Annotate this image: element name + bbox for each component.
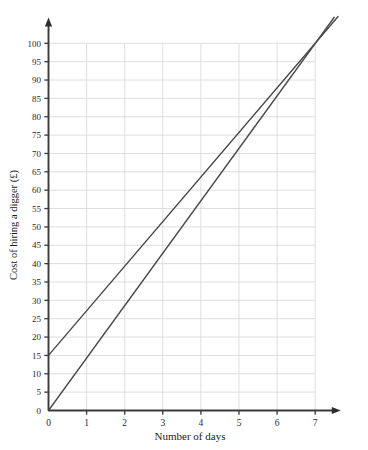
- y-tick-label: 65: [32, 167, 42, 177]
- y-tick-label: 45: [32, 240, 42, 250]
- x-axis-title: Number of days: [155, 430, 226, 442]
- x-tick-label: 2: [122, 418, 127, 428]
- y-tick-label: 50: [32, 222, 42, 232]
- x-tick-label: 5: [237, 418, 242, 428]
- y-tick-label: 25: [32, 314, 42, 324]
- y-tick-label: 55: [32, 204, 42, 214]
- y-tick-label: 95: [32, 57, 42, 67]
- x-tick-label: 7: [313, 418, 318, 428]
- y-tick-label: 10: [32, 369, 42, 379]
- chart-container: 0510152025303540455055606570758085909510…: [0, 0, 368, 450]
- y-tick-label: 0: [37, 406, 42, 416]
- x-tick-label: 0: [46, 418, 51, 428]
- y-tick-label: 15: [32, 351, 42, 361]
- y-tick-label: 80: [32, 112, 42, 122]
- y-tick-label: 5: [37, 387, 42, 397]
- x-tick-label: 6: [275, 418, 280, 428]
- x-tick-label: 3: [160, 418, 165, 428]
- y-tick-label: 60: [32, 185, 42, 195]
- x-tick-label: 4: [199, 418, 204, 428]
- y-axis-title: Cost of hiring a digger (£): [8, 170, 20, 280]
- y-tick-label: 100: [28, 39, 42, 49]
- y-tick-label: 20: [32, 332, 42, 342]
- y-tick-label: 35: [32, 277, 42, 287]
- y-tick-label: 40: [32, 259, 42, 269]
- y-tick-label: 30: [32, 296, 42, 306]
- cost-vs-days-line-chart: 0510152025303540455055606570758085909510…: [0, 0, 368, 450]
- y-tick-label: 70: [32, 149, 42, 159]
- x-tick-label: 1: [84, 418, 89, 428]
- y-tick-label: 90: [32, 75, 42, 85]
- y-tick-label: 75: [32, 130, 42, 140]
- y-tick-label: 85: [32, 94, 42, 104]
